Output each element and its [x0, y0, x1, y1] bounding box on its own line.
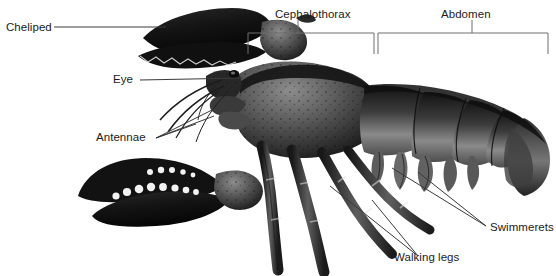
label-cheliped: Cheliped: [6, 21, 52, 33]
label-cephalothorax: Cephalothorax: [275, 8, 350, 20]
label-antennae: Antennae: [96, 131, 146, 143]
lobster-illustration: [0, 0, 556, 276]
cephalothorax-body: [206, 62, 377, 158]
walking-legs-leader-1: [330, 186, 418, 256]
label-walking-legs: Walking legs: [394, 251, 459, 263]
label-eye: Eye: [113, 73, 133, 85]
label-swimmerets: Swimmerets: [490, 221, 554, 233]
antennae-leader-3: [156, 124, 196, 138]
lobster-specimen: [78, 8, 550, 272]
label-abdomen: Abdomen: [441, 8, 491, 20]
abdomen-bracket: [378, 33, 548, 54]
lobster-anatomy-figure: Cheliped Eye Antennae Cephalothorax Abdo…: [0, 0, 556, 276]
cheliped-lower: [78, 158, 263, 227]
